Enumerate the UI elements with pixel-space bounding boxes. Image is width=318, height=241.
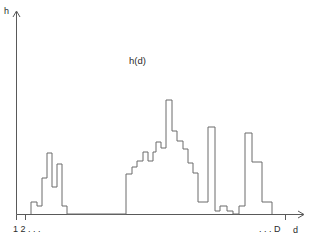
histogram-figure: h d h(d) 1 2 . . . . . . D	[0, 0, 318, 241]
x-tick-label-left: 1 2 . . .	[13, 224, 41, 234]
x-axis-label: d	[293, 225, 298, 235]
curve-label: h(d)	[129, 55, 146, 66]
x-tick-label-right: . . . D	[259, 224, 281, 234]
histogram-outline	[31, 100, 272, 214]
histogram-svg: h d h(d) 1 2 . . . . . . D	[0, 0, 318, 241]
y-axis	[13, 11, 20, 215]
x-axis	[17, 211, 305, 218]
x-axis-ticks	[17, 215, 286, 221]
y-axis-label: h	[4, 6, 9, 16]
